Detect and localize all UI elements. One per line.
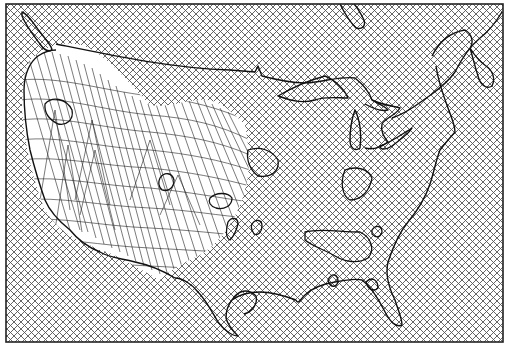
map-figure: Contiguous United States surface plot ov… bbox=[0, 0, 505, 346]
map-canvas bbox=[0, 0, 505, 346]
